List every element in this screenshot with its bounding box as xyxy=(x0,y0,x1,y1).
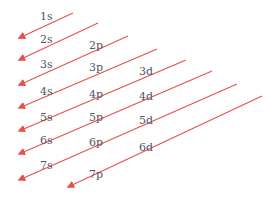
orbital-label-5p: 5p xyxy=(89,112,103,123)
arrow-icon xyxy=(19,36,128,85)
orbital-label-6s: 6s xyxy=(40,135,53,146)
orbital-label-7p: 7p xyxy=(89,169,103,180)
orbital-label-6d: 6d xyxy=(139,142,153,153)
orbital-label-4p: 4p xyxy=(89,89,103,100)
orbital-label-6p: 6p xyxy=(89,137,103,148)
orbital-label-1s: 1s xyxy=(40,11,53,22)
orbital-label-2s: 2s xyxy=(40,34,53,45)
orbital-label-3p: 3p xyxy=(89,62,103,73)
orbital-label-4s: 4s xyxy=(40,86,53,97)
orbital-label-3s: 3s xyxy=(40,59,53,70)
orbital-label-3d: 3d xyxy=(139,66,153,77)
orbital-label-2p: 2p xyxy=(89,40,103,51)
orbital-label-7s: 7s xyxy=(40,160,53,171)
orbital-label-4d: 4d xyxy=(139,91,153,102)
orbital-label-5d: 5d xyxy=(139,115,153,126)
orbital-label-5s: 5s xyxy=(40,112,53,123)
